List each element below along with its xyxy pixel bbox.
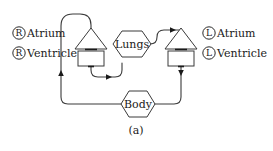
left-ventricle-marker-letter: L	[206, 48, 212, 58]
right-atrium-triangle	[75, 28, 107, 49]
circulation-diagram: Lungs Body R Atrium R Ventricle L Atrium…	[0, 0, 273, 151]
edge-left-ventricle-to-body	[152, 66, 184, 104]
arrowhead-right-lower	[106, 74, 112, 80]
lungs-label: Lungs	[115, 38, 150, 51]
arrowhead-right-upper	[170, 27, 176, 33]
right-atrium-label: Atrium	[26, 27, 66, 40]
left-ventricle-label: Ventricle	[216, 47, 267, 60]
figure-caption: (a)	[128, 124, 143, 137]
left-ventricle-square	[168, 51, 194, 66]
right-ventricle-label: Ventricle	[26, 47, 77, 60]
left-atrium-marker-letter: L	[206, 28, 212, 38]
body-label: Body	[124, 98, 153, 111]
arrowhead-down-right	[178, 70, 184, 76]
left-legend: R Atrium R Ventricle	[13, 27, 77, 60]
arrowhead-up-left	[58, 70, 64, 76]
left-atrium-label: Atrium	[216, 27, 256, 40]
left-atrium-triangle	[165, 28, 197, 49]
right-ventricle-marker-letter: R	[16, 48, 23, 58]
right-atrium-marker-letter: R	[16, 28, 23, 38]
right-legend: L Atrium L Ventricle	[203, 27, 267, 60]
right-ventricle-square	[78, 51, 104, 66]
flow-path-lv-body	[152, 66, 181, 104]
circulation-svg: Lungs Body R Atrium R Ventricle L Atrium…	[0, 0, 273, 151]
